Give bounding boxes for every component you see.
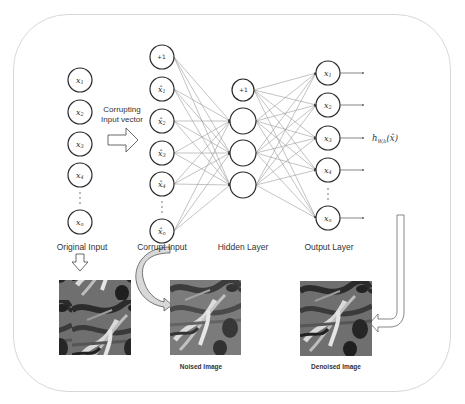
noised-image-caption: Noised Image: [180, 363, 222, 370]
output-layer: [316, 61, 340, 230]
edges-corrupt-to-hidden: [174, 57, 230, 231]
hidden-layer: [230, 79, 256, 198]
curved-arrow-icon: [136, 247, 172, 311]
corrupting-line2: Input vector: [101, 115, 143, 125]
corrupt-input-layer: [150, 45, 174, 243]
j-arrow-icon: [370, 215, 404, 332]
denoised-image: [300, 281, 372, 356]
network-diagram: x1 x2 x3 x4 xn +1 x̂1 x̂2 x̂3 x̂4 x̂n +1…: [0, 0, 465, 404]
original-input-layer: [68, 68, 92, 234]
original-image: [59, 280, 131, 355]
original-input-label: Original Input: [57, 242, 108, 252]
corrupting-line1: Corrupting: [101, 105, 143, 115]
corrupt-input-label: Corrupt Input: [137, 242, 187, 252]
denoised-image-caption: Denoised Image: [311, 363, 361, 370]
hidden-layer-label: Hidden Layer: [218, 242, 269, 252]
corrupting-arrow-icon: [108, 128, 138, 152]
output-arrows: [340, 73, 364, 218]
output-layer-label: Output Layer: [304, 242, 353, 252]
noised-image: [170, 280, 241, 355]
ellipsis-dots: [79, 192, 80, 203]
output-function-label: hW,b(x̂): [372, 133, 398, 144]
down-arrow-icon: [72, 254, 88, 271]
edges-hidden-to-output: [254, 73, 316, 218]
corrupting-label: Corrupting Input vector: [101, 105, 143, 125]
svg-text:+1: +1: [239, 86, 248, 93]
svg-text:+1: +1: [157, 53, 166, 60]
